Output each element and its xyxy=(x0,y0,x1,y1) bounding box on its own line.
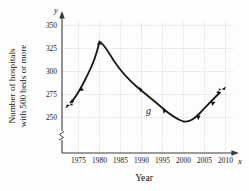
xtick-label-1990: 1990 xyxy=(134,156,149,165)
xtick-label-1975: 1975 xyxy=(71,156,86,165)
direction-marker-6 xyxy=(211,102,216,107)
y-axis-title-line-2: with 500 beds or more xyxy=(18,45,28,128)
y-axis-variable-symbol: y xyxy=(53,5,58,15)
xtick-label-1995: 1995 xyxy=(155,156,170,165)
ytick-label-325: 325 xyxy=(46,44,57,53)
x-axis-variable-symbol: x xyxy=(237,156,242,166)
y-axis xyxy=(59,11,65,153)
curve-name-label: g xyxy=(146,105,151,116)
ytick-label-275: 275 xyxy=(46,90,57,99)
xtick-label-2005: 2005 xyxy=(197,156,212,165)
hospital-beds-line-chart: 350 325 300 275 250 1975 1980 1985 1990 … xyxy=(0,0,249,191)
y-gridlines xyxy=(62,26,233,118)
y-tick-labels: 350 325 300 275 250 xyxy=(46,21,57,122)
xtick-label-1980: 1980 xyxy=(92,156,107,165)
y-axis-title: Number of hospitals with 500 beds or mor… xyxy=(7,45,28,128)
curve-left-arrowhead xyxy=(66,99,75,108)
xtick-label-2000: 2000 xyxy=(176,156,191,165)
x-axis xyxy=(62,150,239,156)
y-axis-title-line-1: Number of hospitals xyxy=(7,48,17,123)
y-axis-arrowhead xyxy=(59,11,65,19)
ytick-label-250: 250 xyxy=(46,113,57,122)
ytick-label-350: 350 xyxy=(46,21,57,30)
y-axis-break-icon xyxy=(59,132,64,141)
x-axis-arrowhead xyxy=(231,150,239,156)
x-tick-labels: 1975 1980 1985 1990 1995 2000 2005 2010 xyxy=(71,156,233,165)
chart-canvas: 350 325 300 275 250 1975 1980 1985 1990 … xyxy=(0,0,249,191)
ytick-label-300: 300 xyxy=(46,67,57,76)
xtick-label-1985: 1985 xyxy=(113,156,128,165)
x-axis-title: Year xyxy=(135,172,153,183)
xtick-label-2010: 2010 xyxy=(218,156,233,165)
